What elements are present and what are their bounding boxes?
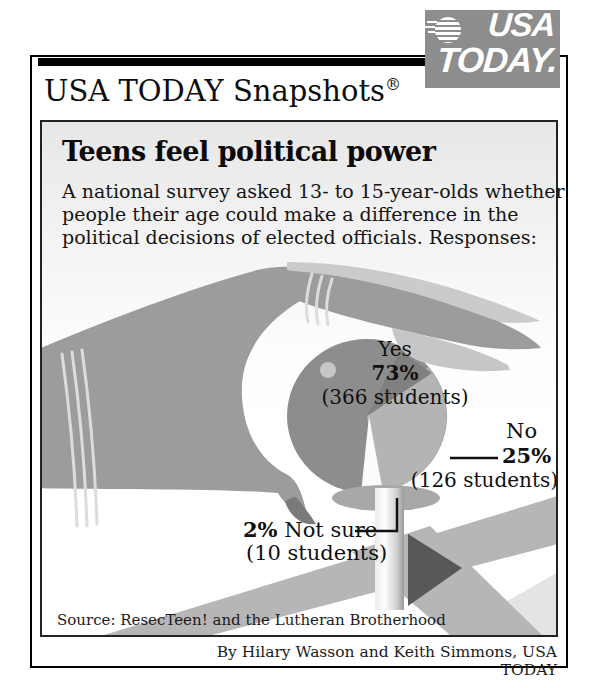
- byline: By Hilary Wasson and Keith Simmons, USA …: [200, 643, 557, 679]
- logo-today-text: TODAY.: [436, 40, 559, 80]
- label-not-sure: 2% Not sure: [243, 517, 377, 542]
- label-yes: Yes 73% (366 students): [315, 337, 475, 409]
- yes-name: Yes: [315, 337, 475, 361]
- not-sure-detail: (10 students): [246, 541, 387, 565]
- yes-value: 73%: [315, 361, 475, 385]
- logo-speedline-icon: [425, 26, 435, 28]
- logo-speedline-icon: [427, 21, 437, 23]
- snapshots-header-text: USA TODAY Snapshots: [44, 74, 385, 108]
- source-credit: Source: ResecTeen! and the Lutheran Brot…: [57, 611, 446, 629]
- no-detail: (126 students): [402, 468, 558, 492]
- logo-usa-text: USA: [487, 6, 556, 44]
- header-black-bar: [38, 58, 426, 66]
- snapshots-header: USA TODAY Snapshots®: [44, 74, 401, 108]
- not-sure-name: Not sure: [284, 518, 377, 542]
- not-sure-value: 2%: [243, 517, 278, 542]
- no-name: No: [506, 419, 537, 443]
- usa-today-logo: USA TODAY.: [425, 10, 560, 88]
- yes-detail: (366 students): [315, 385, 475, 409]
- no-value: 25%: [502, 443, 551, 468]
- registered-mark: ®: [385, 75, 401, 94]
